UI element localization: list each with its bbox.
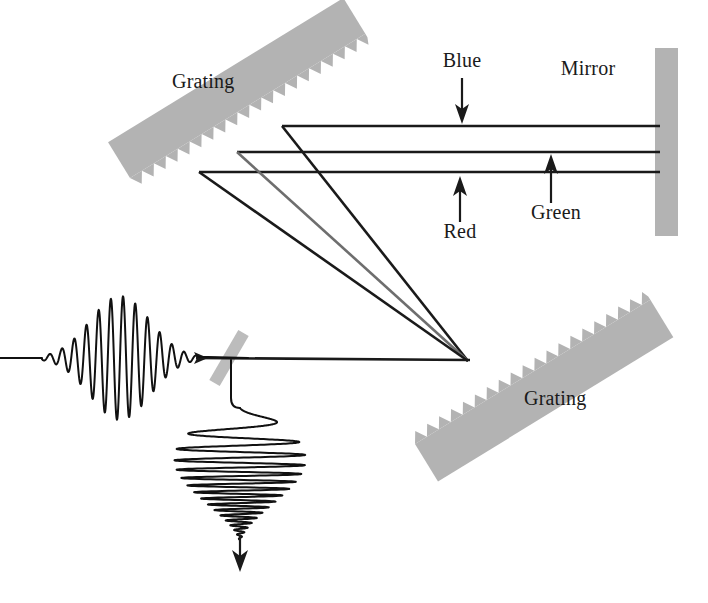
input-pulse-waveform — [0, 296, 248, 419]
chirped-pulse-path — [175, 408, 306, 540]
callout-blue-label: Blue — [443, 49, 482, 71]
callout-blue: Blue — [443, 49, 482, 124]
spectral-beams — [199, 126, 660, 172]
mirror-body — [655, 48, 678, 236]
callout-green-label: Green — [531, 201, 581, 223]
optics-diagram: Grating Grating Mirror — [0, 0, 708, 603]
grating-top-label: Grating — [172, 70, 235, 93]
grating-bottom[interactable]: Grating — [409, 290, 673, 481]
grating-bottom-label: Grating — [524, 387, 587, 410]
output-chirped-waveform — [175, 360, 306, 572]
callout-red-label: Red — [444, 220, 477, 242]
callout-red: Red — [444, 176, 477, 242]
grating-top[interactable]: Grating — [108, 0, 371, 187]
diagram-canvas: Grating Grating Mirror — [0, 0, 708, 603]
input-pulse-path — [0, 296, 248, 419]
splitter-drop-line — [231, 360, 240, 408]
beam-blue-diagonal — [282, 126, 468, 361]
dispersed-fan — [199, 126, 468, 361]
callout-green: Green — [531, 154, 581, 223]
beam-green-diagonal — [237, 152, 468, 361]
mirror-label: Mirror — [561, 57, 616, 79]
